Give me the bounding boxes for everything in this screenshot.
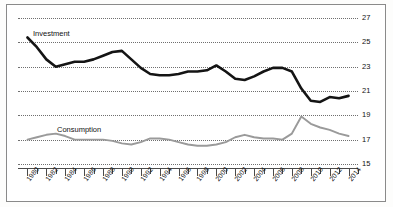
gridline [18,164,358,165]
y-axis-tick-label: 15 [362,159,370,168]
y-axis-tick-label: 21 [362,86,370,95]
series-lines [18,18,358,164]
y-axis-tick-label: 27 [362,13,370,22]
y-axis-tick-label: 23 [362,62,370,71]
consumption-series-label: Consumption [57,125,101,134]
series-line-investment [27,37,348,101]
y-axis-tick-label: 25 [362,37,370,46]
investment-series-label: Investment [33,29,70,38]
y-axis-tick-label: 19 [362,110,370,119]
y-axis-tick-label: 17 [362,135,370,144]
chart-page: Investment Consumption 27252321191715198… [0,0,393,207]
